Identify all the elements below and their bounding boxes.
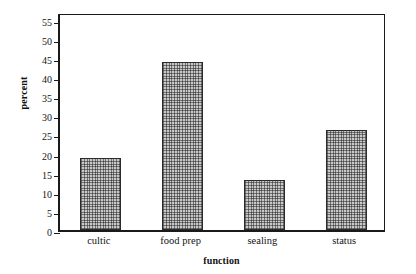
y-tick-mark: [54, 137, 60, 138]
bar: [244, 180, 285, 230]
x-tick-label: food prep: [140, 236, 222, 247]
y-tick-label: 5: [47, 209, 52, 219]
y-tick-mark: [54, 176, 60, 177]
y-tick-mark: [54, 99, 60, 100]
bar: [326, 130, 367, 230]
bar: [80, 158, 121, 230]
y-tick-mark: [54, 214, 60, 215]
y-axis-title: percent: [16, 58, 32, 128]
y-tick-label: 40: [42, 75, 52, 85]
y-tick-label: 0: [47, 228, 52, 238]
y-tick-label: 30: [42, 113, 52, 123]
y-tick-mark: [54, 61, 60, 62]
y-tick-mark: [54, 157, 60, 158]
y-tick-label: 20: [42, 152, 52, 162]
y-tick-mark: [54, 42, 60, 43]
x-tick-label: cultic: [58, 236, 140, 247]
y-tick-mark: [54, 23, 60, 24]
y-tick-label: 55: [42, 18, 52, 28]
bar: [162, 62, 203, 230]
y-tick-label: 45: [42, 56, 52, 66]
x-axis-title: function: [58, 255, 385, 266]
y-tick-mark: [54, 118, 60, 119]
y-tick-mark: [54, 195, 60, 196]
y-tick-mark: [54, 80, 60, 81]
x-tick-label: sealing: [222, 236, 304, 247]
plot-area: 0510152025303540455055: [58, 14, 385, 232]
y-tick-label: 50: [42, 37, 52, 47]
x-tick-label: status: [303, 236, 385, 247]
y-tick-mark: [54, 233, 60, 234]
y-tick-label: 10: [42, 190, 52, 200]
y-tick-label: 35: [42, 94, 52, 104]
y-tick-label: 25: [42, 132, 52, 142]
y-tick-label: 15: [42, 171, 52, 181]
bar-chart-figure: percent 0510152025303540455055 culticfoo…: [0, 0, 416, 274]
